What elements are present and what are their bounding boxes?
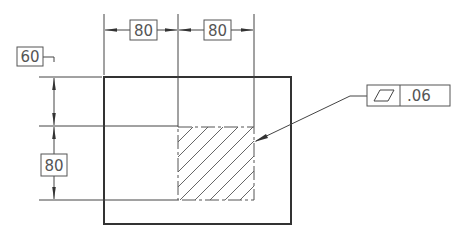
- dimension-top-left-value: 80: [134, 22, 153, 40]
- dimension-top-left: 80: [105, 20, 177, 40]
- feature-control-frame: .06: [254, 85, 450, 142]
- dimension-top-right-value: 80: [208, 22, 227, 40]
- dimension-left-upper: 60: [17, 47, 54, 125]
- part-outline: [104, 77, 291, 224]
- dimension-top-right: 80: [179, 20, 253, 40]
- tolerance-value: .06: [407, 87, 431, 105]
- dimension-left-lower: 80: [41, 127, 67, 199]
- dimension-left-upper-value: 60: [20, 48, 39, 66]
- drawing-canvas: 80 80 60 80 .06: [0, 0, 468, 237]
- dimension-left-lower-value: 80: [44, 157, 63, 175]
